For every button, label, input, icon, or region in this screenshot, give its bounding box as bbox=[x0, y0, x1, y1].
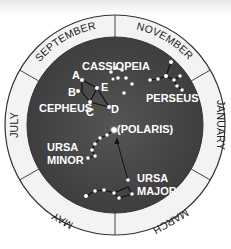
label-ursa-major-1: URSA bbox=[137, 172, 168, 184]
point-b: B bbox=[68, 86, 76, 98]
label-cepheus: CEPHEUS bbox=[39, 102, 92, 114]
month-january: JANUARY bbox=[215, 100, 227, 150]
point-a: A bbox=[72, 69, 80, 81]
label-ursa-major-2: MAJOR bbox=[137, 185, 177, 197]
label-ursa-minor-1: URSA bbox=[47, 141, 78, 153]
label-polaris: (POLARIS) bbox=[117, 123, 174, 135]
star-chart: SEPTEMBER NOVEMBER JANUARY MARCH MAY JUL… bbox=[0, 0, 231, 249]
month-july: JULY bbox=[8, 112, 20, 138]
point-d: D bbox=[111, 103, 119, 115]
point-e: E bbox=[101, 81, 108, 93]
label-cassiopeia: CASSIOPEIA bbox=[82, 60, 150, 72]
label-perseus: PERSEUS bbox=[146, 92, 199, 104]
label-ursa-minor-2: MINOR bbox=[47, 154, 84, 166]
point-c: C bbox=[86, 106, 94, 118]
